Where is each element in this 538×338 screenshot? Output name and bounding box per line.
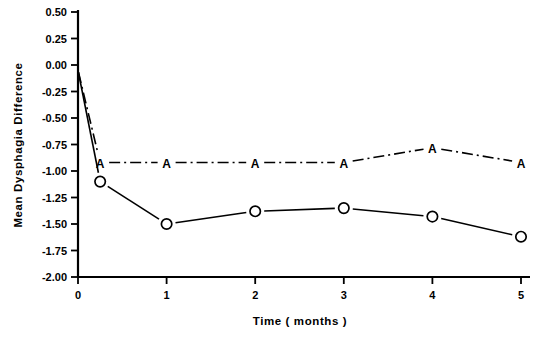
y-tick-label: -2.00 bbox=[42, 271, 67, 283]
chart-container: 0.500.250.00-0.25-0.50-0.75-1.00-1.25-1.… bbox=[0, 0, 538, 338]
y-tick-label: -1.00 bbox=[42, 165, 67, 177]
series-o-marker bbox=[516, 232, 526, 242]
y-tick-label: -1.25 bbox=[42, 192, 67, 204]
series-segment bbox=[108, 186, 159, 219]
x-tick-label: 1 bbox=[164, 289, 170, 301]
x-axis-title: Time ( months ) bbox=[253, 315, 347, 327]
y-tick-label: 0.50 bbox=[46, 6, 67, 18]
y-tick-label: 0.00 bbox=[46, 59, 67, 71]
x-tick-label: 2 bbox=[252, 289, 258, 301]
series-A-line bbox=[78, 72, 512, 162]
y-tick-label: -1.50 bbox=[42, 218, 67, 230]
series-o-marker bbox=[427, 211, 437, 221]
line-chart: 0.500.250.00-0.25-0.50-0.75-1.00-1.25-1.… bbox=[0, 0, 538, 338]
series-a-marker: A bbox=[162, 157, 171, 171]
series-segment bbox=[441, 219, 512, 235]
y-tick-label: -1.75 bbox=[42, 245, 67, 257]
y-tick-label: 0.25 bbox=[46, 33, 67, 45]
y-tick-label: -0.75 bbox=[42, 139, 67, 151]
series-segment bbox=[264, 208, 335, 211]
y-tick-label: -0.25 bbox=[42, 86, 67, 98]
series-segment bbox=[441, 149, 512, 161]
series-o-marker bbox=[250, 206, 260, 216]
y-tick-label: -0.50 bbox=[42, 112, 67, 124]
x-tick-label: 5 bbox=[518, 289, 524, 301]
series-a-marker: A bbox=[339, 157, 348, 171]
series-O-line bbox=[78, 72, 512, 234]
series-segment bbox=[176, 213, 247, 223]
series-o-marker bbox=[161, 219, 171, 229]
y-axis-title: Mean Dysphagia Difference bbox=[12, 62, 24, 227]
series-segment bbox=[353, 209, 424, 216]
series-segment bbox=[353, 149, 424, 161]
series-a-marker: A bbox=[251, 157, 260, 171]
series-a-marker: A bbox=[517, 157, 526, 171]
x-tick-label: 4 bbox=[429, 289, 436, 301]
x-tick-label: 0 bbox=[75, 289, 81, 301]
series-a-marker: A bbox=[96, 157, 105, 171]
x-tick-label: 3 bbox=[341, 289, 347, 301]
series-o-marker bbox=[95, 176, 105, 186]
series-o-marker bbox=[339, 203, 349, 213]
series-a-marker: A bbox=[428, 142, 437, 156]
